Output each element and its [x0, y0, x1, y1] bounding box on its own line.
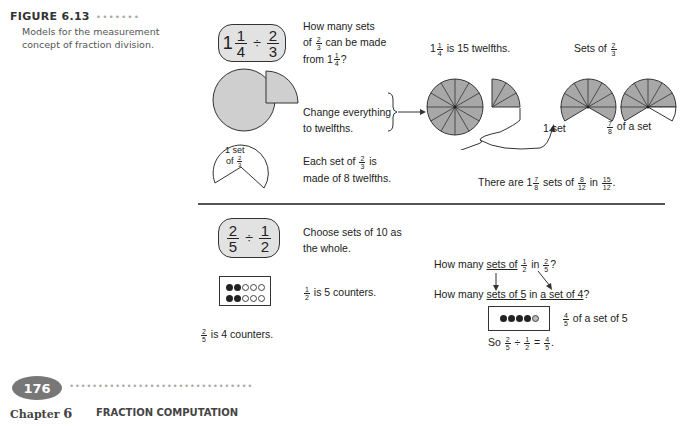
- text: is 5 counters.: [314, 286, 376, 298]
- five-counters-box: [488, 306, 550, 331]
- numerator: 1: [524, 336, 530, 344]
- numerator: 2: [505, 336, 511, 344]
- step2-text: Change everything to twelfths.: [303, 104, 391, 136]
- fraction: 23: [267, 28, 279, 59]
- arrow-icon: [538, 271, 550, 286]
- counter-row: [225, 280, 270, 291]
- numerator: 1: [334, 52, 340, 60]
- fraction: 14: [437, 42, 443, 57]
- fraction: 45: [544, 336, 550, 351]
- final-equation: So 25 ÷ 12 = 45.: [488, 334, 554, 351]
- numerator: 2: [316, 36, 322, 44]
- numerator: 1: [304, 286, 310, 294]
- two-fifths-label: 25 is 4 counters.: [200, 326, 273, 343]
- denominator: 3: [267, 44, 279, 59]
- step2-line2: to twelfths.: [303, 120, 391, 136]
- denominator: 3: [316, 44, 322, 51]
- filled-counter-icon: [234, 284, 241, 291]
- fraction: 23: [359, 155, 365, 170]
- filled-counter-icon: [524, 315, 531, 322]
- denominator: 4: [235, 44, 247, 59]
- denominator: 3: [611, 50, 617, 57]
- underlined-text: sets of 5: [487, 288, 527, 300]
- equals-sign: =: [534, 336, 540, 348]
- text: ?: [583, 288, 589, 300]
- figure-caption: Models for the measurement concept of fr…: [22, 25, 172, 51]
- conclusion-text: There are 178 sets of 812 in 1512.: [478, 174, 616, 191]
- expression-pill-2: 25 ÷ 12: [218, 218, 280, 258]
- set-shape-label: 1 set of 23: [225, 145, 245, 168]
- text: in: [529, 288, 537, 300]
- numerator: 1: [235, 28, 247, 44]
- text: How many: [434, 258, 484, 270]
- empty-counter-icon: [242, 295, 249, 302]
- division-sign: ÷: [515, 336, 521, 348]
- text: How many: [434, 288, 484, 300]
- fifteen-twelfths-label: 114 is 15 twelfths.: [430, 40, 510, 57]
- step1-line2: the whole.: [303, 240, 402, 256]
- numerator: 7: [533, 176, 539, 184]
- text: is 4 counters.: [211, 328, 273, 340]
- text: of a set of 5: [573, 312, 628, 324]
- text: can be made: [326, 36, 387, 48]
- numerator: 2: [201, 328, 207, 336]
- division-sign: ÷: [253, 35, 261, 51]
- text: 1: [430, 42, 436, 54]
- figure-number: FIGURE 6.13: [10, 10, 90, 23]
- text: of: [303, 36, 312, 48]
- filled-counter-icon: [226, 295, 233, 302]
- section-divider: [198, 203, 665, 205]
- question-line3: from 114?: [303, 51, 386, 68]
- filled-counter-icon: [516, 315, 523, 322]
- numerator: 2: [611, 42, 617, 50]
- fraction: 12: [524, 336, 530, 351]
- text: is: [369, 155, 377, 167]
- numerator: 1: [437, 42, 443, 50]
- sets-label: Sets of 23: [574, 40, 618, 57]
- step2-line1: Change everything: [303, 104, 391, 120]
- text: of a set: [617, 120, 651, 132]
- denominator: 4: [334, 60, 340, 67]
- question-2: How many sets of 5 in a set of 4?: [434, 286, 589, 302]
- text: in: [590, 176, 598, 188]
- question-line1: How many sets: [303, 18, 386, 34]
- fraction: 78: [607, 120, 613, 135]
- text: of: [226, 156, 234, 166]
- fraction: 25: [201, 328, 207, 343]
- result-label: 45 of a set of 5: [562, 310, 628, 327]
- numerator: 4: [563, 312, 569, 320]
- denominator: 2: [259, 239, 271, 254]
- fraction: 23: [237, 155, 242, 168]
- empty-counter-icon: [250, 284, 257, 291]
- quarter-circle-icon: [266, 71, 298, 103]
- denominator: 5: [544, 344, 550, 351]
- empty-counter-icon: [250, 295, 257, 302]
- fraction: 12: [304, 286, 310, 301]
- denominator: 2: [304, 294, 310, 301]
- numerator: 1: [259, 223, 271, 239]
- numerator: 2: [227, 223, 239, 239]
- fraction: 1512: [602, 176, 612, 191]
- question-text: How many sets of 23 can be made from 114…: [303, 18, 386, 67]
- fraction: 14: [334, 52, 340, 67]
- denominator: 3: [359, 163, 365, 170]
- fraction: 25: [227, 223, 239, 254]
- decorative-dots: •••••••: [96, 12, 140, 22]
- denominator: 12: [578, 184, 586, 191]
- twelfths-diagram: [380, 60, 682, 150]
- text: ?: [341, 53, 347, 65]
- chapter-word: Chapter: [10, 408, 59, 421]
- seven-eighths-label: 78 of a set: [606, 118, 651, 135]
- step1-line1: Choose sets of 10 as: [303, 224, 402, 240]
- underlined-text: a set of 4: [540, 288, 583, 300]
- three-twelfths-icon: [492, 79, 520, 107]
- decorative-dots: ••••••••••••••••••••••••••••••••: [70, 381, 254, 391]
- numerator: 8: [578, 176, 586, 184]
- text: Each set of: [303, 155, 356, 167]
- filled-counter-icon: [500, 315, 507, 322]
- twelfths-circle-icon: [427, 79, 483, 135]
- denominator: 5: [563, 320, 569, 327]
- question-line2: of 23 can be made: [303, 34, 386, 51]
- text: So: [488, 336, 501, 348]
- whole-number: 1: [223, 33, 233, 54]
